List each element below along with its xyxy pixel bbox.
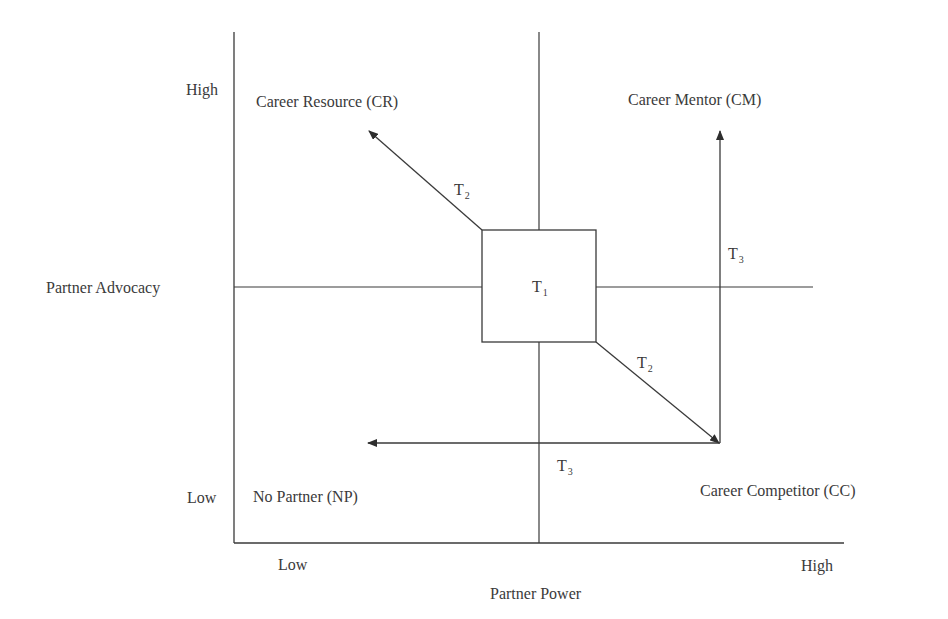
t3-label-to-np: T3 [557,457,573,481]
y-axis-high-label: High [186,81,218,99]
quadrant-label-career-resource: Career Resource (CR) [256,93,398,111]
t3-label-subscript: 3 [739,254,744,265]
t1-label-subscript: 1 [543,287,548,298]
t1-label-main: T [532,278,542,295]
t1-label: T1 [532,278,548,302]
t2-label-to-cr: T2 [454,181,470,205]
quadrant-label-no-partner: No Partner (NP) [253,488,358,506]
y-axis-low-label: Low [187,489,216,507]
t2-label-subscript: 2 [465,190,470,201]
quadrant-diagram [0,0,948,619]
t3-label-subscript: 3 [568,466,573,477]
t2-arrow-to-cc [596,342,719,443]
t2-label-to-cc: T2 [637,354,653,378]
t2-label-main: T [637,354,647,371]
t3-label-to-cm: T3 [728,245,744,269]
quadrant-label-career-competitor: Career Competitor (CC) [700,482,856,500]
x-axis-high-label: High [801,557,833,575]
t3-label-main: T [557,457,567,474]
quadrant-label-career-mentor: Career Mentor (CM) [628,91,761,109]
x-axis-title: Partner Power [490,585,581,603]
t2-label-main: T [454,181,464,198]
t2-label-subscript: 2 [648,363,653,374]
y-axis-title: Partner Advocacy [46,279,160,297]
t3-label-main: T [728,245,738,262]
x-axis-low-label: Low [278,556,307,574]
